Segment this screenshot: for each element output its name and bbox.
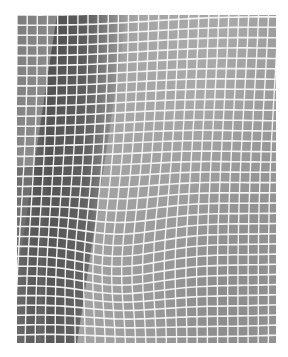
- mesh-grid-graphic: [17, 15, 276, 343]
- page-canvas: [0, 0, 288, 357]
- faint-caption-artifacts: [17, 345, 276, 353]
- mesh-photograph: [17, 15, 276, 343]
